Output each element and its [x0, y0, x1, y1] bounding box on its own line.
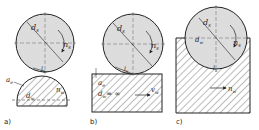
panel-b: ds ns lk ae dw= ∞ vw b) [90, 12, 165, 126]
panel-c: ds ns dw lk nw c) [176, 5, 250, 126]
label-ae-a: ae [6, 76, 13, 85]
caption-b: b) [90, 118, 97, 126]
grinding-contact-diagram: ds ns lk ae dw nw a) ds ns lk ae dw= ∞ v… [0, 0, 259, 130]
caption-c: c) [176, 118, 183, 126]
caption-a: a) [4, 118, 11, 126]
label-dw-b: dw= ∞ [98, 90, 120, 99]
panel-a: ds ns lk ae dw nw a) [4, 12, 76, 126]
